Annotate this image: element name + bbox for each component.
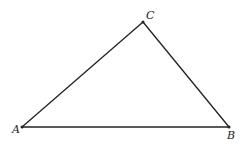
triangle-edges bbox=[22, 22, 229, 127]
triangle-diagram: ABC bbox=[0, 0, 247, 149]
vertex-labels: ABC bbox=[11, 9, 235, 142]
edge-CA bbox=[22, 22, 143, 127]
vertex-label-A: A bbox=[11, 123, 20, 136]
vertex-A bbox=[21, 126, 24, 129]
vertex-label-B: B bbox=[226, 129, 235, 142]
vertex-label-C: C bbox=[146, 9, 155, 22]
edge-BC bbox=[143, 22, 229, 127]
vertex-C bbox=[142, 21, 145, 24]
